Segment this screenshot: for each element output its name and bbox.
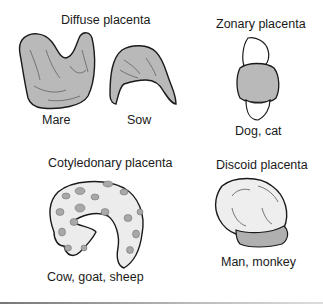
mare-placenta-figure bbox=[19, 33, 94, 109]
discoid-placenta-figure bbox=[216, 179, 288, 248]
cow-goat-sheep-caption: Cow, goat, sheep bbox=[47, 270, 144, 284]
mare-caption: Mare bbox=[42, 113, 70, 127]
zonary-placenta-title: Zonary placenta bbox=[216, 17, 306, 31]
cotyledonary-placenta-title: Cotyledonary placenta bbox=[48, 156, 172, 170]
zonary-placenta-figure bbox=[237, 38, 279, 120]
dog-cat-caption: Dog, cat bbox=[235, 124, 282, 138]
diffuse-placenta-title: Diffuse placenta bbox=[61, 13, 150, 27]
man-monkey-caption: Man, monkey bbox=[221, 255, 296, 269]
cotyledonary-placenta-figure bbox=[50, 181, 143, 268]
sow-placenta-figure bbox=[110, 46, 176, 104]
discoid-placenta-title: Discoid placenta bbox=[216, 158, 308, 172]
sow-caption: Sow bbox=[127, 113, 151, 127]
